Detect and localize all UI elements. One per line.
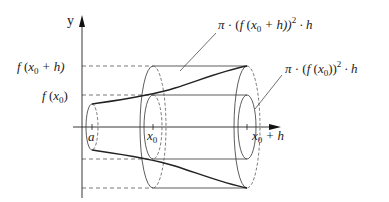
y-axis-arrow-icon	[79, 15, 85, 27]
label-f-x0: f (x0)	[42, 88, 68, 105]
solid-of-revolution-diagram: y f (x0 + h) f (x0) a x0 x0 + h π · (f (…	[0, 0, 389, 202]
y-axis-label: y	[67, 13, 74, 28]
tick-label-x0: x0	[146, 128, 158, 145]
tick-label-x0-plus-h: x0 + h	[251, 128, 284, 145]
label-f-x0-h: f (x0 + h)	[17, 59, 65, 76]
inner-volume-formula: π · (f (x0))2 · h	[285, 59, 358, 78]
inner-volume-pointer	[255, 75, 282, 109]
tick-label-a: a	[88, 129, 95, 144]
annotation-pointers	[180, 33, 282, 109]
axes	[73, 24, 272, 198]
outer-volume-formula: π · (f (x0 + h))2 · h	[218, 15, 312, 34]
outer-volume-pointer	[180, 33, 216, 71]
